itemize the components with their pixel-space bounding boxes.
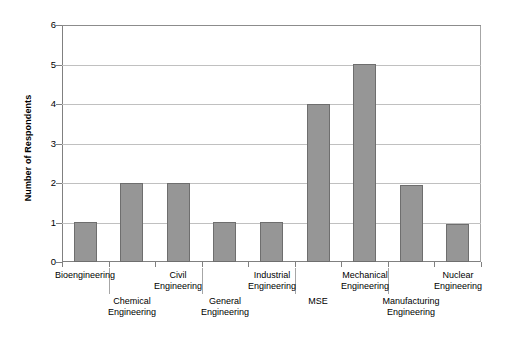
x-tick-mark xyxy=(434,262,435,267)
y-tick-label: 6 xyxy=(16,20,56,29)
x-tick-mark xyxy=(155,262,156,267)
y-tick-label: 5 xyxy=(16,60,56,69)
x-tick-mark xyxy=(341,262,342,267)
bar xyxy=(260,222,283,262)
bar xyxy=(446,224,469,262)
x-tick-mark xyxy=(295,262,296,267)
bar xyxy=(213,222,236,262)
category-label: ManufacturingEngineering xyxy=(356,296,466,318)
bar xyxy=(167,183,190,262)
bar xyxy=(120,183,143,262)
x-tick-mark xyxy=(202,262,203,267)
x-tick-mark xyxy=(109,262,110,267)
category-label-line: Manufacturing xyxy=(356,296,466,307)
x-tick-mark xyxy=(388,262,389,267)
y-tick-label: 3 xyxy=(16,139,56,148)
category-label-line: Nuclear xyxy=(403,270,511,281)
x-tick-mark xyxy=(62,262,63,267)
y-tick-label: 2 xyxy=(16,178,56,187)
bar xyxy=(74,222,97,262)
bar-chart: Number of Respondents 6543210 Bioenginee… xyxy=(0,0,511,342)
bars-layer xyxy=(62,25,481,262)
bar xyxy=(353,64,376,262)
category-label: NuclearEngineering xyxy=(403,270,511,292)
bar xyxy=(307,104,330,262)
y-axis-title: Number of Respondents xyxy=(23,58,33,238)
y-tick-label: 0 xyxy=(16,257,56,266)
x-tick-mark xyxy=(481,262,482,267)
category-label-line: Engineering xyxy=(170,307,280,318)
category-label-line: Engineering xyxy=(403,281,511,292)
bar xyxy=(400,185,423,262)
x-tick-mark xyxy=(248,262,249,267)
y-tick-label: 4 xyxy=(16,99,56,108)
y-tick-label: 1 xyxy=(16,218,56,227)
category-label-line: Engineering xyxy=(356,307,466,318)
